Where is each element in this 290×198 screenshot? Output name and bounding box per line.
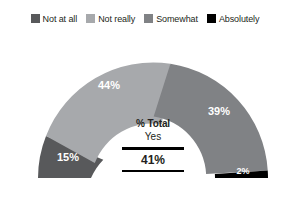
legend-item-not-really: Not really [86,14,135,24]
kpi-rule-top [122,147,184,150]
square-swatch-icon [31,14,40,23]
kpi-value: 41% [98,153,208,167]
slice-label-not-really: 44% [98,79,120,91]
legend-item-label: Somewhat [156,14,198,24]
kpi-subtitle: Yes [98,130,208,143]
chart-legend: Not at all Not really Somewhat Absolutel… [0,0,290,34]
semicircle-donut-chart: 15% 44% 39% 2% [0,34,290,198]
legend-item-label: Not really [98,14,135,24]
kpi-title: % Total [98,118,208,130]
legend-item-label: Not at all [43,14,78,24]
kpi-rule-bottom [122,170,184,173]
center-kpi-block: % Total Yes 41% [98,118,208,172]
square-swatch-icon [207,14,216,23]
legend-item-somewhat: Somewhat [144,14,198,24]
square-swatch-icon [86,14,95,23]
legend-item-not-at-all: Not at all [31,14,78,24]
gauge-svg: 15% 44% 39% 2% [0,34,290,198]
legend-item-absolutely: Absolutely [207,14,260,24]
slice-label-not-at-all: 15% [57,151,79,163]
slice-label-somewhat: 39% [208,105,230,117]
square-swatch-icon [144,14,153,23]
slice-label-absolutely: 2% [236,166,249,176]
legend-item-label: Absolutely [219,14,260,24]
